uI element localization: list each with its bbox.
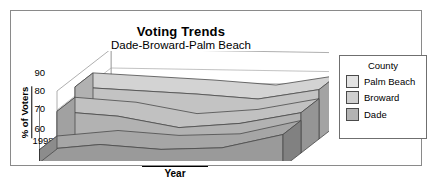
chart-legend: County Palm Beach Broward Dade	[339, 55, 427, 139]
chart-frame: Voting Trends Dade-Broward-Palm Beach % …	[10, 10, 422, 166]
legend-item-palm-beach[interactable]: Palm Beach	[346, 75, 426, 88]
legend-item-broward[interactable]: Broward	[346, 91, 426, 104]
chart-subtitle: Dade-Broward-Palm Beach	[41, 39, 321, 51]
legend-swatch-dade-icon	[346, 108, 359, 121]
legend-label-broward: Broward	[364, 92, 399, 103]
legend-item-dade[interactable]: Dade	[346, 108, 426, 121]
chart-title: Voting Trends	[51, 24, 311, 39]
x-axis-title: Year	[142, 166, 208, 179]
area-chart-svg	[39, 51, 329, 161]
legend-label-palm-beach: Palm Beach	[364, 76, 415, 87]
plot-area	[39, 51, 329, 161]
legend-swatch-broward-icon	[346, 91, 359, 104]
legend-label-dade: Dade	[364, 109, 387, 120]
legend-swatch-palm-beach-icon	[346, 75, 359, 88]
legend-title: County	[340, 60, 426, 71]
